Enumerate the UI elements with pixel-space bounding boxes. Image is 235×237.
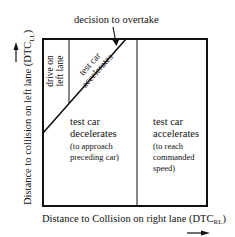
decision-annotation: decision to overtake: [74, 14, 159, 25]
decision-arrow-icon: [113, 27, 120, 46]
x-axis-label: Distance to Collision on right lane (DTC…: [42, 213, 226, 226]
overtake-decision-diagram: decision to overtake drive on left lane …: [0, 0, 235, 237]
region-decelerate-line4: preceding car): [70, 152, 119, 162]
x-axis-arrow-icon: [187, 231, 210, 236]
region-accel-right-line2: accelerates: [153, 128, 199, 139]
region-accel-right-line4: commanded: [153, 152, 195, 162]
region-drive-left-line2: left lane: [55, 56, 65, 87]
region-accel-right-line1: test car: [153, 116, 184, 127]
region-accel-right-line5: speed): [153, 163, 175, 173]
region-decelerate-line1: test car: [70, 116, 101, 127]
region-decelerate-line3: (to approach: [70, 141, 113, 151]
region-decelerate-line2: decelerates: [70, 128, 117, 139]
y-axis-arrow-icon: [14, 42, 19, 62]
region-accel-right-line3: (to reach: [153, 141, 184, 151]
y-axis-label: Distance to collision on left lane (DTCL…: [22, 29, 36, 205]
region-drive-left-line1: drive on: [45, 55, 55, 87]
